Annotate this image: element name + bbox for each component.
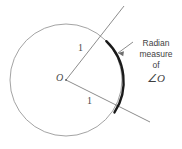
- callout-line-3: of: [132, 60, 180, 71]
- center-label-o: O: [56, 73, 63, 84]
- radius-label-lower: 1: [87, 96, 92, 107]
- callout-angle-o: ∠O: [132, 71, 180, 85]
- upper-ray: [66, 6, 124, 80]
- radian-measure-callout: Radian measure of ∠O: [132, 38, 180, 85]
- radian-measure-figure: O 1 1 Radian measure of ∠O: [0, 0, 182, 149]
- callout-line-1: Radian: [132, 38, 180, 49]
- callout-leader-line: [118, 42, 133, 53]
- lower-ray: [66, 80, 150, 122]
- callout-line-2: measure: [132, 49, 180, 60]
- center-point-dot: [65, 79, 67, 81]
- radius-label-upper: 1: [78, 43, 83, 54]
